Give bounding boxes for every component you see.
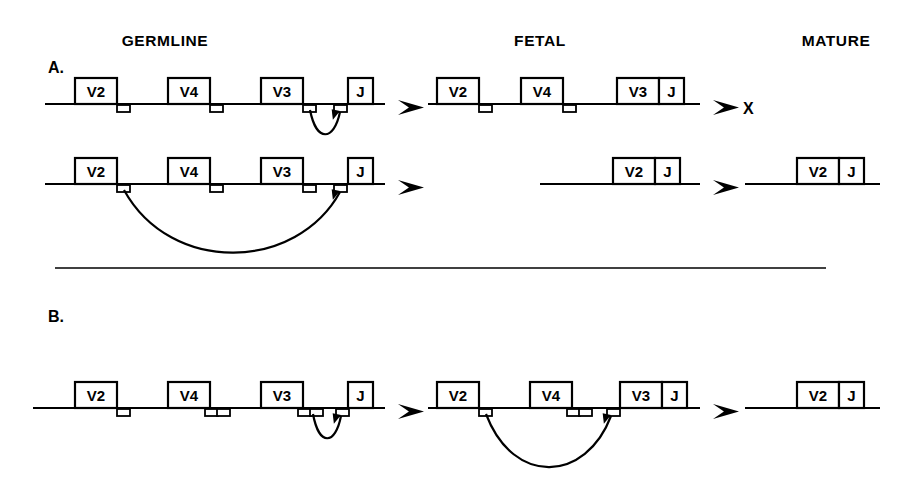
rss-marker — [563, 105, 576, 112]
gene-label-V2: V2 — [87, 163, 105, 180]
gene-label-V4: V4 — [180, 83, 199, 100]
stage-arrow-head — [398, 180, 424, 195]
gene-label-V2: V2 — [449, 83, 467, 100]
rss-marker — [217, 409, 230, 416]
stage-arrow — [398, 100, 424, 115]
panel-label-A: A. — [48, 59, 64, 76]
column-header-fetal: FETAL — [514, 32, 566, 49]
gene-label-V2: V2 — [87, 387, 105, 404]
pathway-row-A2: V2V4V3JV2JV2J — [45, 158, 880, 253]
gene-label-J: J — [667, 83, 675, 100]
rss-marker — [298, 409, 311, 416]
stage-arrow — [398, 180, 424, 195]
column-header-germline: GERMLINE — [122, 32, 209, 49]
gene-label-J: J — [356, 387, 364, 404]
rss-marker — [579, 409, 592, 416]
pathway-row-A1: V2V4V3JV2V4V3JX — [45, 78, 754, 134]
locus-A2-fetal: V2J — [540, 158, 700, 184]
stage-arrow — [713, 180, 739, 195]
stage-arrow — [398, 404, 424, 419]
rss-marker — [479, 105, 492, 112]
panel-A: A.V2V4V3JV2V4V3JXV2V4V3JV2JV2J — [45, 59, 880, 253]
rss-marker — [303, 185, 316, 192]
nonproductive-mark: X — [743, 100, 754, 117]
pathway-row-B1: V2V4V3JV2V4V3JV2J — [33, 382, 880, 467]
locus-A1-germline: V2V4V3J — [45, 78, 385, 134]
locus-A2-mature: V2J — [745, 158, 880, 184]
gene-label-J: J — [356, 83, 364, 100]
rss-marker — [205, 409, 218, 416]
gene-label-J: J — [663, 163, 671, 180]
column-header-mature: MATURE — [802, 32, 871, 49]
gene-label-V3: V3 — [273, 387, 291, 404]
stage-arrow-head — [398, 100, 424, 115]
rss-marker — [310, 409, 323, 416]
stage-arrow-head — [713, 100, 739, 115]
gene-label-V3: V3 — [273, 83, 291, 100]
recombination-arc — [124, 190, 340, 253]
stage-arrow — [713, 100, 739, 115]
stage-arrow — [713, 404, 739, 419]
gene-label-V3: V3 — [629, 83, 647, 100]
gene-label-V3: V3 — [632, 387, 650, 404]
recombination-diagram: GERMLINEFETALMATUREA.V2V4V3JV2V4V3JXV2V4… — [0, 0, 913, 479]
gene-label-J: J — [847, 163, 855, 180]
locus-B1-mature: V2J — [745, 382, 880, 408]
figure-canvas: GERMLINEFETALMATUREA.V2V4V3JV2V4V3JXV2V4… — [0, 0, 913, 479]
rss-marker — [117, 409, 130, 416]
gene-label-V4: V4 — [180, 163, 199, 180]
gene-label-V2: V2 — [625, 163, 643, 180]
rss-marker — [210, 185, 223, 192]
rss-marker — [567, 409, 580, 416]
column-headers: GERMLINEFETALMATURE — [122, 32, 871, 49]
locus-B1-germline: V2V4V3J — [33, 382, 385, 438]
locus-A1-fetal: V2V4V3J — [428, 78, 700, 112]
gene-label-V2: V2 — [809, 387, 827, 404]
panel-label-B: B. — [48, 308, 64, 325]
gene-label-V4: V4 — [180, 387, 199, 404]
gene-label-V4: V4 — [542, 387, 561, 404]
gene-label-V4: V4 — [533, 83, 552, 100]
gene-label-V2: V2 — [809, 163, 827, 180]
rss-marker — [210, 105, 223, 112]
gene-label-J: J — [356, 163, 364, 180]
panel-B: B.V2V4V3JV2V4V3JV2J — [33, 308, 880, 467]
gene-label-J: J — [670, 387, 678, 404]
rss-marker — [117, 105, 130, 112]
stage-arrow-head — [398, 404, 424, 419]
gene-label-V2: V2 — [449, 387, 467, 404]
stage-arrow-head — [713, 180, 739, 195]
locus-B1-fetal: V2V4V3J — [428, 382, 700, 467]
gene-label-J: J — [847, 387, 855, 404]
gene-label-V2: V2 — [87, 83, 105, 100]
locus-A2-germline: V2V4V3J — [45, 158, 385, 253]
gene-label-V3: V3 — [273, 163, 291, 180]
stage-arrow-head — [713, 404, 739, 419]
recombination-arc — [486, 414, 611, 467]
